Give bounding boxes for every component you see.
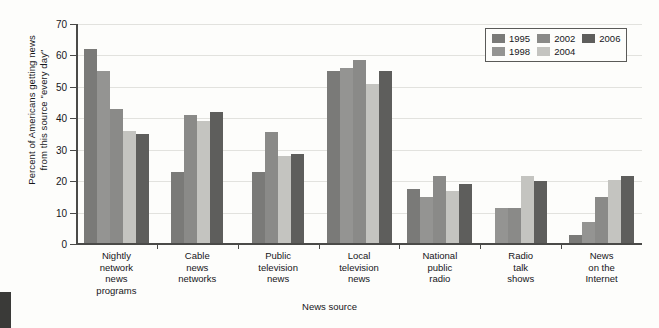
legend-item: 2006	[582, 33, 620, 44]
legend-swatch	[492, 34, 505, 43]
legend: 19952002200619982004	[485, 28, 627, 62]
bar	[327, 71, 340, 244]
bar	[366, 84, 379, 244]
bar	[621, 176, 634, 244]
y-axis-tick	[70, 118, 76, 119]
bar	[252, 172, 265, 244]
legend-swatch	[537, 47, 550, 56]
category-label-line: television	[238, 262, 319, 274]
legend-item: 1995	[492, 33, 530, 44]
y-axis-title-line-2: from this source "every day"	[38, 50, 51, 171]
y-axis-tick-label: 20	[56, 176, 67, 187]
category-label-line: networks	[157, 273, 238, 285]
bar	[407, 189, 420, 244]
legend-item: 2004	[537, 46, 575, 57]
bar	[459, 184, 472, 244]
bar	[265, 132, 278, 244]
bar	[110, 109, 123, 244]
category-label-line: public	[399, 262, 480, 274]
bar	[340, 68, 353, 244]
legend-item: 2002	[537, 33, 575, 44]
x-axis-title: News source	[0, 301, 659, 312]
bar	[291, 154, 304, 244]
y-axis-tick	[70, 213, 76, 214]
category-label-line: Radio	[480, 250, 561, 262]
x-axis-tick	[319, 244, 320, 249]
y-axis-tick	[70, 24, 76, 25]
y-axis-tick	[70, 55, 76, 56]
bar	[495, 208, 508, 244]
y-axis-tick-label: 60	[56, 50, 67, 61]
y-axis-tick-label: 50	[56, 81, 67, 92]
y-axis-tick-label: 70	[56, 19, 67, 30]
category-label-line: News	[561, 250, 642, 262]
category-label-line: news	[238, 273, 319, 285]
x-axis-category-label: Nationalpublicradio	[399, 250, 480, 285]
y-axis-tick-label: 40	[56, 113, 67, 124]
bar-chart: Percent of Americans getting news from t…	[0, 0, 659, 328]
bar	[446, 191, 459, 244]
x-axis-tick	[480, 244, 481, 249]
category-label-line: news	[76, 273, 157, 285]
bar	[420, 197, 433, 244]
bar	[197, 121, 210, 244]
category-label-line: news	[319, 273, 400, 285]
category-label-line: talk	[480, 262, 561, 274]
legend-row: 199520022006	[492, 33, 620, 44]
x-axis-category-label: Newson theInternet	[561, 250, 642, 285]
category-label-line: Cable	[157, 250, 238, 262]
x-axis-tick	[238, 244, 239, 249]
category-label-line: National	[399, 250, 480, 262]
legend-label: 2006	[599, 33, 620, 44]
x-axis-category-label: Publictelevisionnews	[238, 250, 319, 285]
y-axis-tick-label: 30	[56, 144, 67, 155]
legend-label: 1995	[509, 33, 530, 44]
y-axis-tick	[70, 181, 76, 182]
y-axis-tick-label: 0	[61, 239, 67, 250]
y-axis-tick	[70, 150, 76, 151]
x-axis-tick	[561, 244, 562, 249]
bar	[353, 60, 366, 244]
legend-swatch	[537, 34, 550, 43]
x-axis-category-label: Nightlynetworknewsprograms	[76, 250, 157, 296]
category-label-line: network	[76, 262, 157, 274]
bar	[379, 71, 392, 244]
bar	[521, 176, 534, 244]
category-label-line: on the	[561, 262, 642, 274]
legend-label: 2002	[554, 33, 575, 44]
bar	[210, 112, 223, 244]
legend-swatch	[492, 47, 505, 56]
bar	[508, 208, 521, 244]
bar	[171, 172, 184, 244]
bar	[123, 131, 136, 244]
x-axis-tick	[157, 244, 158, 249]
x-axis-line	[76, 243, 642, 245]
bar	[433, 176, 446, 244]
category-label-line: Public	[238, 250, 319, 262]
x-axis-category-label: Cablenewsnetworks	[157, 250, 238, 285]
category-label-line: Local	[319, 250, 400, 262]
category-label-line: shows	[480, 273, 561, 285]
legend-label: 2004	[554, 46, 575, 57]
legend-swatch	[582, 34, 595, 43]
bar	[608, 180, 621, 244]
x-axis-category-label: Radiotalkshows	[480, 250, 561, 285]
y-axis-tick-label: 10	[56, 207, 67, 218]
y-axis-title-line-1: Percent of Americans getting news	[26, 35, 39, 185]
category-label-line: programs	[76, 285, 157, 297]
x-axis-category-label: Localtelevisionnews	[319, 250, 400, 285]
bar	[278, 156, 291, 244]
legend-label: 1998	[509, 46, 530, 57]
bar	[97, 71, 110, 244]
bar	[534, 181, 547, 244]
bar	[136, 134, 149, 244]
bar	[595, 197, 608, 244]
bar	[582, 222, 595, 244]
category-label-line: Nightly	[76, 250, 157, 262]
category-label-line: news	[157, 262, 238, 274]
legend-item: 1998	[492, 46, 530, 57]
legend-row: 19982004	[492, 46, 620, 57]
bar	[84, 49, 97, 244]
y-axis-tick	[70, 87, 76, 88]
y-axis-tick	[70, 244, 76, 245]
